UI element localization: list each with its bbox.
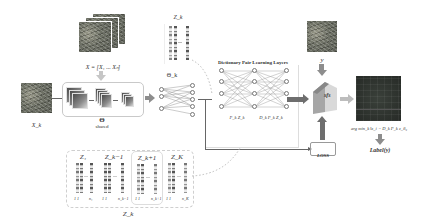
output-map-line (356, 109, 401, 110)
theta-k-label: Θ_k (160, 72, 184, 78)
shared-cnn-box (62, 82, 144, 117)
sub-right: n_k−1 (118, 196, 128, 201)
node (159, 106, 164, 111)
argmin-label: arg min_k ‖z_i − D_k P_k z_i‖₂ (348, 126, 410, 131)
arrow-head (317, 70, 327, 76)
zk-group-1: Z₁ 1 1 n₁ (69, 151, 97, 205)
cnn-connector (113, 100, 118, 101)
arrow-head (303, 94, 309, 104)
dpl-frame (206, 65, 299, 148)
feature-column (108, 163, 111, 193)
input-image-stack (78, 13, 126, 53)
ellipsis (177, 176, 181, 177)
connector-xk-cnn (52, 98, 62, 99)
input-image-xk (21, 83, 52, 113)
arrow-head (317, 116, 327, 122)
arrow-head (375, 139, 385, 145)
ellipsis (146, 177, 150, 178)
sub-right: n₁ (89, 196, 92, 201)
zk-top-label: Z_k (168, 14, 188, 20)
cnn-connector (89, 100, 94, 101)
arrow-dpl-to-sfs (287, 97, 303, 102)
node (190, 112, 195, 117)
sub-left: 1 1 (74, 196, 79, 201)
feature-column (80, 163, 83, 193)
ellipsis (84, 176, 88, 177)
zk-group-label: Z_k+1 (132, 154, 162, 162)
feature-map (101, 94, 112, 108)
sub-right: n_k+1 (151, 196, 161, 201)
shared-symbol: Θ (92, 116, 112, 124)
zk-group-3: Z_k+1 1 1 n_k+1 (131, 151, 163, 205)
query-image-y (307, 21, 337, 52)
y-label: y (312, 56, 332, 64)
zk-bottom-group: Z₁ 1 1 n₁ Z_k−1 1 1 n_k−1 Z_k+1 1 1 n_k+… (66, 150, 194, 208)
feature-column (169, 26, 172, 60)
feature-column (168, 163, 171, 193)
dotted-curve-bottom (190, 146, 260, 186)
feature-map (72, 93, 88, 109)
loss-label: LOSS (317, 153, 329, 158)
sub-left: 1 1 (102, 196, 107, 201)
node (159, 87, 164, 92)
zk-group-4: Z_K 1 1 n_K (163, 151, 191, 205)
sfs-block (311, 80, 341, 116)
feature-column (154, 164, 157, 194)
feature-column (184, 163, 187, 193)
arrow-head (348, 94, 354, 104)
ellipsis (113, 176, 117, 177)
feature-column (90, 163, 93, 193)
input-image-1 (78, 21, 112, 53)
zk-bottom-label: Z_k (118, 210, 138, 218)
zk-group-2: Z_k−1 1 1 n_k−1 (99, 151, 129, 205)
sub-right: n_K (182, 196, 189, 201)
sfs-label: sfs (324, 92, 331, 98)
sub-left: 1 1 (135, 196, 140, 201)
feature-column (174, 26, 177, 60)
arrow-head (149, 93, 155, 103)
feature-column (76, 163, 79, 193)
ellipsis (178, 42, 182, 43)
zk-group-label: Z₁ (69, 153, 97, 161)
arrow-sfs-to-output (340, 97, 348, 101)
sub-left: 1 1 (166, 196, 171, 201)
feature-column (137, 164, 140, 194)
arrow-loss-to-sfs (320, 122, 325, 140)
feature-column (121, 163, 124, 193)
zk-group-label: Z_K (163, 153, 191, 161)
feature-column (104, 163, 107, 193)
output-map (356, 76, 401, 121)
loss-box: LOSS (310, 142, 336, 156)
shared-label: shared (87, 124, 117, 129)
input-stack-label: X = [X₁ ... Xₙ] (72, 63, 134, 70)
feature-column (186, 26, 189, 60)
zk-group-label: Z_k−1 (99, 153, 129, 161)
node (159, 94, 164, 99)
arrow-head (96, 75, 106, 81)
input-xk-label: X_k (21, 122, 52, 128)
feature-column (141, 164, 144, 194)
node (190, 104, 195, 109)
output-label: Label(y) (362, 147, 398, 153)
feature-column (172, 163, 175, 193)
feature-map (125, 96, 134, 107)
